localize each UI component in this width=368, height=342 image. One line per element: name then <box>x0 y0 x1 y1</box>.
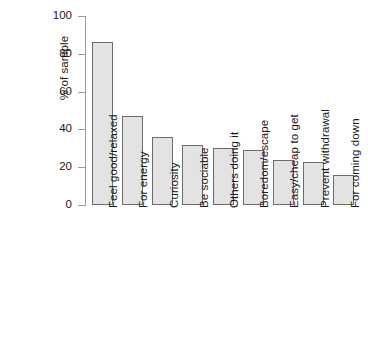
x-tick-label: Others doing it <box>228 132 240 208</box>
x-tick-label: Prevent withdrawal <box>319 109 331 208</box>
y-tick-label: 100 <box>32 10 72 22</box>
y-tick-mark <box>78 92 85 93</box>
y-tick-mark <box>78 54 85 55</box>
x-tick-label: Boredom/escape <box>258 120 270 208</box>
x-tick-label: For coming down <box>349 118 361 208</box>
y-tick-mark <box>78 205 85 206</box>
x-axis-category-labels: Feel good/relaxedFor energyCuriosityBe s… <box>86 208 358 338</box>
y-tick-mark <box>78 129 85 130</box>
bar-chart-figure: % of sample 020406080100 Feel good/relax… <box>0 0 368 342</box>
x-tick-label: Feel good/relaxed <box>107 114 119 208</box>
y-tick-label: 80 <box>32 48 72 60</box>
y-tick-label: 20 <box>32 161 72 173</box>
y-tick-mark <box>78 16 85 17</box>
y-tick-label: 40 <box>32 123 72 135</box>
bars-layer <box>86 16 358 205</box>
x-tick-label: Easy/cheap to get <box>288 114 300 208</box>
y-tick-label: 60 <box>32 86 72 98</box>
y-tick-label: 0 <box>32 199 72 211</box>
y-tick-mark <box>78 167 85 168</box>
x-tick-label: Curiosity <box>168 162 180 208</box>
x-tick-label: For energy <box>137 151 149 208</box>
x-tick-label: Be sociable <box>198 147 210 208</box>
y-axis-title: % of sample <box>58 18 70 118</box>
